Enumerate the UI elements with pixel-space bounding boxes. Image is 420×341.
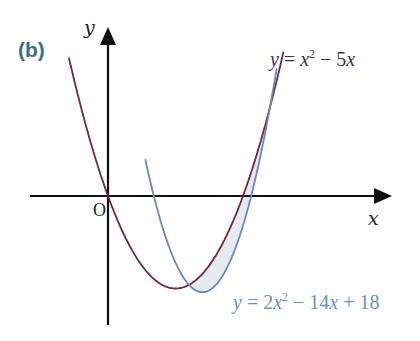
y-axis-label: y — [84, 16, 95, 38]
origin-label: O — [93, 200, 106, 221]
y-axis-arrow-icon — [100, 27, 116, 45]
equation-blue-label: y = 2x2 − 14x + 18 — [233, 290, 380, 314]
eq-blue-exp: 2 — [282, 290, 288, 304]
eq-red-var: x — [300, 48, 309, 70]
eq-red-lhs: y — [270, 48, 279, 70]
part-label: (b) — [18, 38, 45, 62]
eq-blue-var: x — [273, 291, 282, 313]
equation-red-label: yy = = x2 − 5x — [270, 47, 355, 71]
eq-red-exp: 2 — [309, 47, 315, 61]
curve-red — [69, 52, 284, 289]
x-axis-arrow-icon — [374, 188, 392, 204]
x-axis-label: x — [368, 207, 379, 229]
curve-blue — [145, 68, 276, 292]
